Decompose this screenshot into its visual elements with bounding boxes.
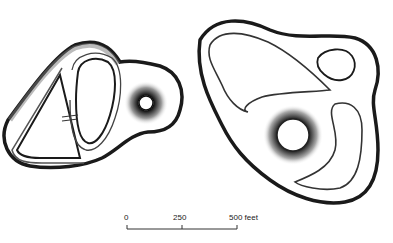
earthworks-diagram bbox=[0, 0, 393, 243]
left-earthwork bbox=[4, 42, 182, 167]
right-earthwork bbox=[199, 21, 378, 203]
scale-label-500: 500 feet bbox=[229, 213, 258, 222]
scale-bar bbox=[127, 225, 237, 229]
scale-label-250: 250 bbox=[173, 213, 186, 222]
scale-label-0: 0 bbox=[124, 213, 128, 222]
